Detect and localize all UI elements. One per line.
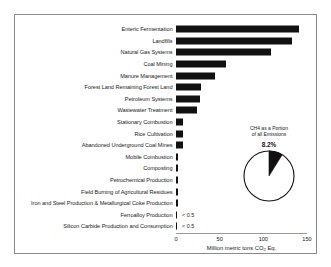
category-label: Rice Cultivation (134, 130, 172, 137)
bar-row: Natural Gas Systems (15, 47, 316, 58)
pie-caption: CH4 as a Portion of all Emissions (228, 125, 310, 137)
bar (176, 142, 183, 149)
bar (176, 165, 178, 172)
pie-value-label: 8.2% (228, 141, 310, 148)
bar (176, 119, 183, 126)
bar (176, 37, 292, 44)
category-label: Wastewater Treatment (117, 107, 172, 114)
bar-row: Enteric Fermentation (15, 24, 316, 35)
bar-row: Silicon Carbide Production and Consumpti… (15, 221, 316, 232)
category-label: Petrochemical Production (110, 177, 173, 184)
x-axis-title-prefix: Million metric tons CO (207, 245, 264, 251)
pie-inset: CH4 as a Portion of all Emissions 8.2% (228, 125, 310, 203)
category-label: Silicon Carbide Production and Consumpti… (63, 223, 172, 230)
category-label: Landfills (152, 38, 172, 45)
pie-chart-svg (243, 150, 295, 202)
chart-figure-frame: Enteric Fermentation Landfills Natural G… (14, 14, 317, 254)
category-label: Forest Land Remaining Forest Land (85, 84, 173, 91)
bar (176, 177, 178, 184)
bar-row: Petroleum Systems (15, 94, 316, 105)
category-label: Field Burning of Agricultural Residues (81, 188, 172, 195)
bar (176, 61, 226, 68)
x-axis-title-subscript: 2 (264, 247, 266, 252)
category-label: Enteric Fermentation (122, 26, 173, 33)
category-label: Ferroalloy Production (120, 212, 172, 219)
x-tick-label: 100 (259, 236, 268, 242)
bar (176, 211, 177, 218)
bar-row: Coal Mining (15, 59, 316, 70)
bar (176, 153, 178, 160)
category-label: Mobile Combustion (125, 154, 172, 161)
category-label: Stationary Combustion (117, 119, 173, 126)
x-axis-title-suffix: Eq. (266, 245, 276, 251)
x-axis-line (176, 233, 307, 234)
x-axis-title: Million metric tons CO2 Eq. (176, 245, 307, 251)
category-label: Iron and Steel Production & Metallurgica… (31, 200, 172, 207)
category-label: Manure Management (120, 72, 172, 79)
bar (176, 95, 200, 102)
bar (176, 49, 271, 56)
category-label: Composting (143, 165, 172, 172)
category-label: Natural Gas Systems (121, 49, 173, 56)
bar (176, 72, 215, 79)
bar (176, 188, 178, 195)
bar (176, 107, 197, 114)
x-tick-label: 0 (174, 236, 177, 242)
bar-row: Ferroalloy Production < 0.5 (15, 210, 316, 221)
bar (176, 200, 178, 207)
bar (176, 223, 177, 230)
bar-row: Wastewater Treatment (15, 105, 316, 116)
value-note: < 0.5 (182, 223, 194, 229)
x-tick-label: 50 (217, 236, 223, 242)
bar (176, 84, 201, 91)
pie-caption-line2: of all Emissions (252, 131, 287, 137)
bar-row: Manure Management (15, 70, 316, 81)
bar (176, 130, 183, 137)
bar (176, 26, 299, 33)
x-tick-label: 150 (302, 236, 311, 242)
category-label: Petroleum Systems (125, 96, 173, 103)
category-label: Abandoned Underground Coal Mines (82, 142, 173, 149)
bar-chart-plot-area: Enteric Fermentation Landfills Natural G… (15, 15, 316, 253)
value-note: < 0.5 (182, 212, 194, 218)
bar-row: Forest Land Remaining Forest Land (15, 82, 316, 93)
bar-row: Landfills (15, 36, 316, 47)
category-label: Coal Mining (144, 61, 173, 68)
